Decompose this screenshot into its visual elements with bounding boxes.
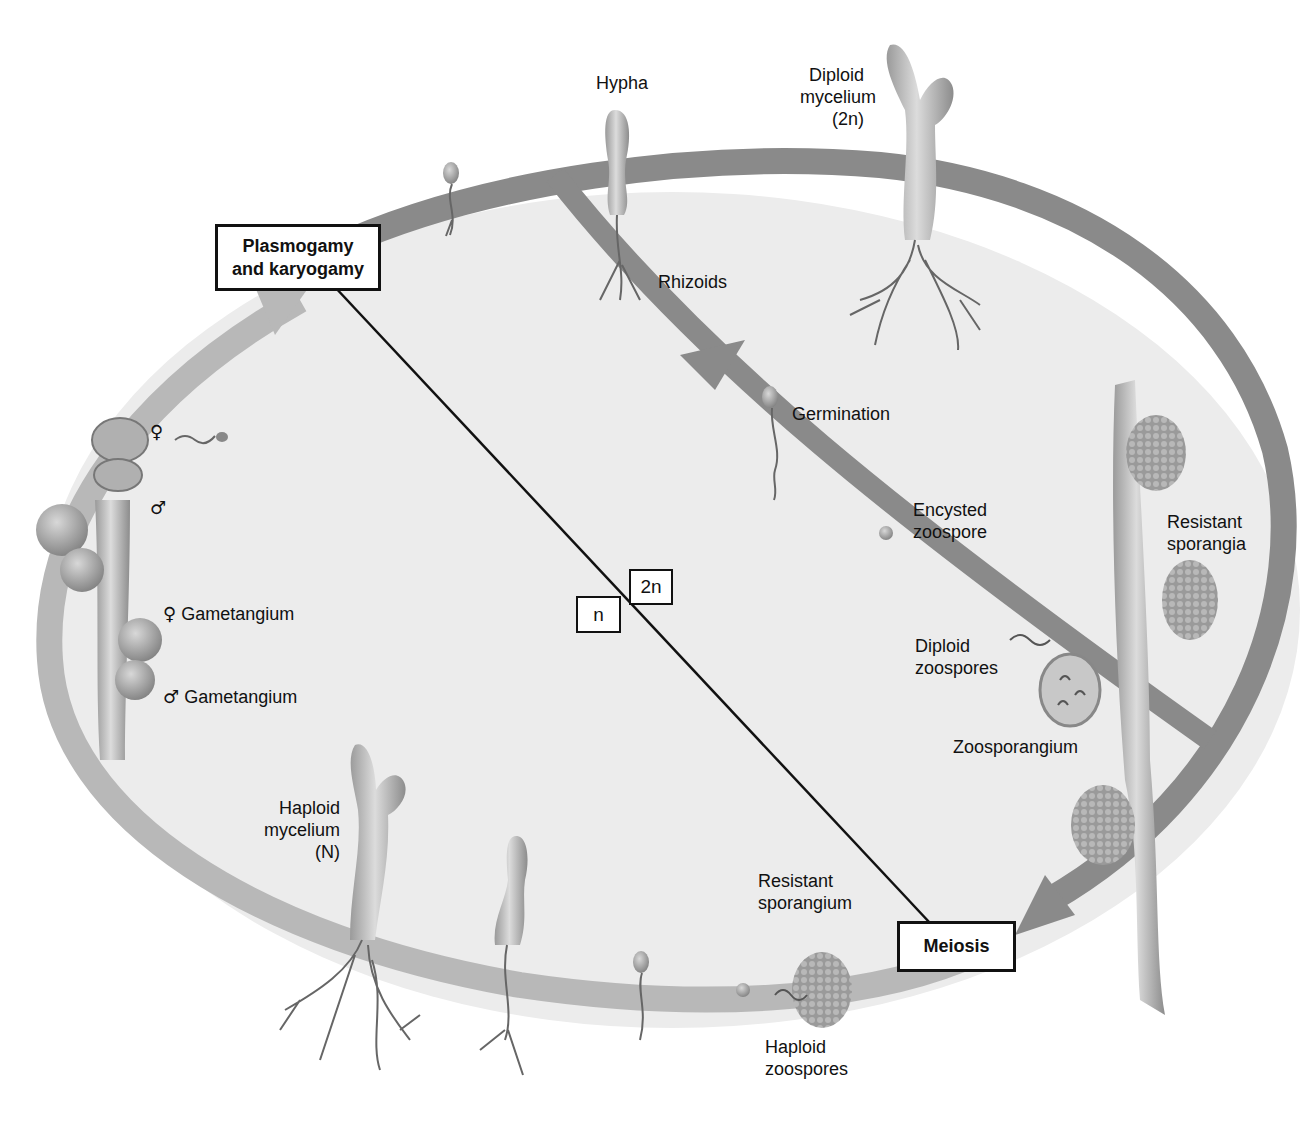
- resistant-sporangium-line2: sporangium: [758, 892, 852, 914]
- resistant-sporangium-line1: Resistant: [758, 870, 852, 892]
- male-gametangium-text: Gametangium: [184, 687, 297, 707]
- label-rhizoids: Rhizoids: [658, 271, 727, 293]
- hypha-text: Hypha: [596, 73, 648, 93]
- label-haploid-mycelium: Haploid mycelium (N): [255, 797, 340, 863]
- ploidy-box-n: n: [576, 596, 621, 633]
- male-gamete-marker: ♂: [150, 497, 166, 519]
- label-germination: Germination: [792, 403, 890, 425]
- diploid-zoospores-line1: Diploid: [915, 635, 998, 657]
- encysted-zoospore-illustration: [879, 526, 893, 540]
- label-hypha: Hypha: [596, 72, 648, 94]
- resistant-sporangia-line1: Resistant: [1167, 511, 1246, 533]
- diploid-mycelium-line1: Diploid: [800, 64, 864, 86]
- germination-text: Germination: [792, 404, 890, 424]
- label-resistant-sporangium: Resistant sporangium: [758, 870, 852, 914]
- life-cycle-diagram: [0, 0, 1312, 1127]
- diploid-mycelium-line3: (2n): [800, 108, 864, 130]
- rhizoids-text: Rhizoids: [658, 272, 727, 292]
- male-symbol-icon: ♂: [163, 686, 179, 707]
- label-diploid-zoospores: Diploid zoospores: [915, 635, 998, 679]
- female-gametangium-text: Gametangium: [181, 604, 294, 624]
- zoosporangium-illustration: [1040, 654, 1100, 726]
- encysted-line1: Encysted: [913, 499, 987, 521]
- plasmogamy-line1: Plasmogamy: [218, 235, 378, 258]
- ploidy-2n-label: 2n: [640, 576, 661, 598]
- haploid-mycelium-line2: mycelium: [255, 819, 340, 841]
- ploidy-n-label: n: [593, 604, 604, 626]
- diploid-mycelium-line2: mycelium: [800, 86, 864, 108]
- haploid-zoospores-line1: Haploid: [765, 1036, 848, 1058]
- encysted-line2: zoospore: [913, 521, 987, 543]
- plasmogamy-line2: and karyogamy: [218, 258, 378, 281]
- plasmogamy-karyogamy-box: Plasmogamy and karyogamy: [215, 224, 381, 291]
- label-zoosporangium: Zoosporangium: [953, 736, 1078, 758]
- meiosis-box: Meiosis: [897, 921, 1016, 972]
- ploidy-box-2n: 2n: [629, 569, 673, 605]
- female-gamete-marker: ♀: [150, 421, 163, 443]
- female-symbol-icon: ♀: [150, 421, 163, 442]
- label-resistant-sporangia: Resistant sporangia: [1167, 511, 1246, 555]
- label-diploid-mycelium: Diploid mycelium (2n): [800, 64, 864, 130]
- diploid-zoospores-line2: zoospores: [915, 657, 998, 679]
- haploid-mycelium-line1: Haploid: [255, 797, 340, 819]
- label-female-gametangium: ♀ Gametangium: [163, 603, 294, 625]
- meiosis-label: Meiosis: [900, 935, 1013, 958]
- label-encysted-zoospore: Encysted zoospore: [913, 499, 987, 543]
- male-symbol-icon: ♂: [150, 497, 166, 518]
- haploid-mycelium-line3: (N): [255, 841, 340, 863]
- zoosporangium-text: Zoosporangium: [953, 737, 1078, 757]
- label-male-gametangium: ♂ Gametangium: [163, 686, 297, 708]
- resistant-sporangia-line2: sporangia: [1167, 533, 1246, 555]
- female-symbol-icon: ♀: [163, 603, 176, 624]
- haploid-zoospores-line2: zoospores: [765, 1058, 848, 1080]
- label-haploid-zoospores: Haploid zoospores: [765, 1036, 848, 1080]
